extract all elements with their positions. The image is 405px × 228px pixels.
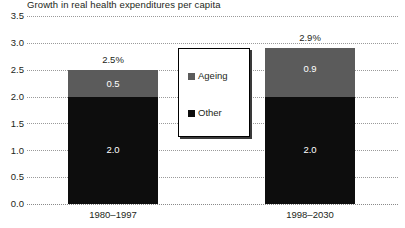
bar-total-label-1998-2030: 2.9% [265, 32, 355, 43]
chart-container: Growth in real health expenditures per c… [0, 0, 405, 228]
chart-legend: Ageing Other [178, 48, 250, 137]
legend-swatch-ageing-icon [188, 73, 195, 80]
y-axis-tick-1-0: 1.0 [0, 146, 24, 156]
bar-segment-other-1998-2030[interactable]: 2.0 [265, 97, 355, 204]
y-axis-tick-2-5: 2.5 [0, 65, 24, 75]
bar-label-ageing-1998-2030: 0.9 [265, 63, 355, 74]
gridline-3-0 [27, 43, 398, 44]
bar-segment-ageing-1980-1997[interactable]: 0.5 [68, 70, 158, 97]
x-axis-label-1980-1997: 1980–1997 [68, 209, 158, 220]
gridline-0-0 [27, 204, 398, 205]
bar-segment-ageing-1998-2030[interactable]: 0.9 [265, 48, 355, 97]
gridline-3-5 [27, 16, 398, 17]
bar-1980-1997[interactable]: 2.0 0.5 2.5% [68, 70, 158, 204]
legend-label-other: Other [198, 108, 222, 118]
y-axis-tick-2-0: 2.0 [0, 92, 24, 102]
legend-label-ageing: Ageing [198, 71, 228, 81]
y-axis-tick-3-0: 3.0 [0, 38, 24, 48]
chart-title: Growth in real health expenditures per c… [27, 0, 221, 10]
y-axis-tick-0-5: 0.5 [0, 172, 24, 182]
bar-label-ageing-1980-1997: 0.5 [68, 78, 158, 89]
bar-total-label-1980-1997: 2.5% [68, 54, 158, 65]
y-axis-tick-3-5: 3.5 [0, 11, 24, 21]
bar-label-other-1998-2030: 2.0 [265, 144, 355, 155]
bar-segment-other-1980-1997[interactable]: 2.0 [68, 97, 158, 204]
legend-swatch-other-icon [188, 110, 195, 117]
x-axis-label-1998-2030: 1998–2030 [265, 209, 355, 220]
y-axis-tick-1-5: 1.5 [0, 119, 24, 129]
legend-entry-other[interactable]: Other [188, 108, 222, 118]
legend-entry-ageing[interactable]: Ageing [188, 71, 228, 81]
y-axis-tick-0-0: 0.0 [0, 199, 24, 209]
bar-1998-2030[interactable]: 2.0 0.9 2.9% [265, 48, 355, 204]
bar-label-other-1980-1997: 2.0 [68, 144, 158, 155]
